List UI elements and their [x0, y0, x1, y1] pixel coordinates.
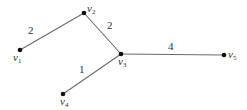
- edge-weight-v1-v2: 2: [28, 25, 34, 36]
- vertex-label-v3-sub: 3: [123, 61, 127, 69]
- edge-v2-v3: [84, 13, 121, 54]
- edge-v3-v5: [121, 54, 224, 55]
- vertex-label-v4-sub: 4: [65, 101, 69, 109]
- vertex-v5: [222, 53, 227, 58]
- edge-weight-v3-v4: 1: [79, 64, 85, 75]
- edge-weight-v2-v3: 2: [107, 20, 113, 31]
- graph-canvas: [0, 0, 247, 110]
- vertex-label-v4: v4: [60, 96, 68, 109]
- vertex-label-v3: v3: [118, 56, 126, 69]
- vertex-label-v2-sub: 2: [92, 8, 96, 16]
- edge-weight-v3-v5: 4: [168, 41, 174, 52]
- nodes-group: [18, 11, 227, 97]
- vertex-label-v1: v1: [13, 52, 21, 65]
- vertex-label-v1-sub: 1: [18, 57, 22, 65]
- vertex-v2: [82, 11, 87, 16]
- vertex-label-v5: v5: [228, 49, 236, 62]
- vertex-label-v5-sub: 5: [233, 54, 237, 62]
- edge-v3-v4: [63, 54, 121, 94]
- vertex-label-v2: v2: [87, 3, 95, 16]
